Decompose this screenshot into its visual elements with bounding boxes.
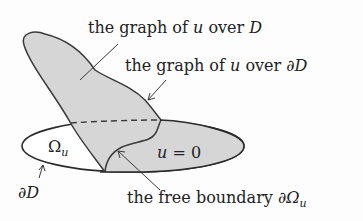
label-u-equals-zero: u = 0 bbox=[157, 143, 201, 162]
label-dD: ∂D bbox=[18, 183, 39, 202]
label-graph-over-D: the graph of u over D bbox=[88, 18, 262, 37]
free-boundary-diagram: the graph of u over D the graph of u ove… bbox=[0, 0, 363, 221]
label-graph-over-dD: the graph of u over ∂D bbox=[125, 56, 308, 75]
label-free-boundary: the free boundary ∂Ωu bbox=[127, 188, 307, 210]
arrow-graph-over-dD bbox=[148, 80, 166, 100]
diagram-svg: the graph of u over D the graph of u ove… bbox=[0, 0, 363, 221]
